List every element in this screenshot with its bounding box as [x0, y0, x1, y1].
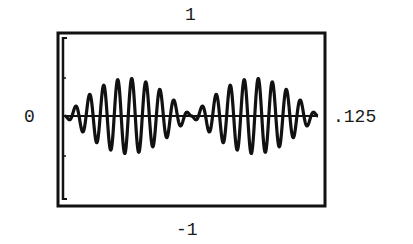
y-min-label: -1 [176, 221, 198, 239]
x-min-label: 0 [24, 108, 35, 126]
y-max-label: 1 [185, 6, 196, 24]
plot-frame [58, 33, 325, 206]
x-max-label: .125 [333, 108, 376, 126]
